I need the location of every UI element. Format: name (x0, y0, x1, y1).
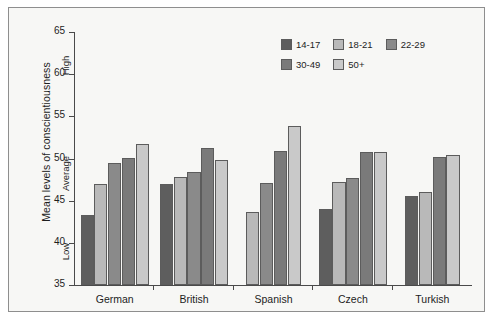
y-axis-tick-label: 35 (54, 278, 65, 289)
y-axis-tick-label: 50 (54, 152, 65, 163)
y-axis-tick: 35 (69, 285, 74, 286)
x-axis-tick (153, 285, 154, 290)
figure-frame: Mean levels of conscientiousness High Av… (8, 7, 485, 312)
bar (215, 160, 228, 285)
x-axis-line (74, 285, 472, 286)
legend-row-1: 14-1718-2122-29 (281, 39, 461, 50)
bar-group (75, 32, 154, 285)
y-axis-tick-label: 55 (54, 109, 65, 120)
y-band-label-high: High (60, 36, 71, 96)
bar (360, 152, 373, 285)
legend-item-label: 18-21 (348, 39, 372, 50)
y-axis-tick: 65 (69, 32, 74, 33)
legend-item[interactable]: 50+ (333, 59, 364, 70)
y-axis-tick-label: 45 (54, 194, 65, 205)
bar (405, 196, 418, 285)
y-axis-title: Mean levels of conscientiousness (40, 27, 52, 257)
bar (419, 192, 432, 285)
legend-item[interactable]: 14-17 (281, 39, 320, 50)
legend-swatch-icon (333, 59, 344, 70)
y-axis-tick: 40 (69, 243, 74, 244)
legend-swatch-icon (281, 39, 292, 50)
bar-group (154, 32, 233, 285)
bar (319, 209, 332, 285)
bar (433, 157, 446, 285)
chart-legend: 14-1718-2122-29 30-4950+ (281, 39, 461, 79)
legend-item-label: 14-17 (296, 39, 320, 50)
legend-item[interactable]: 18-21 (333, 39, 372, 50)
y-axis-tick-label: 65 (54, 25, 65, 36)
legend-row-2: 30-4950+ (281, 59, 461, 70)
legend-item-label: 50+ (348, 59, 364, 70)
bar (81, 215, 94, 285)
bar (94, 184, 107, 285)
bar (288, 126, 301, 285)
bar (260, 183, 273, 285)
bar (136, 144, 149, 285)
x-axis-category-label: Czech (338, 293, 368, 305)
bar (246, 212, 259, 285)
legend-item[interactable]: 30-49 (281, 59, 320, 70)
bar (374, 152, 387, 285)
bar (108, 163, 121, 285)
x-axis-category-label: British (180, 293, 209, 305)
legend-item[interactable]: 22-29 (386, 39, 425, 50)
bar (274, 151, 287, 285)
bar (201, 148, 214, 285)
bar (346, 178, 359, 285)
x-axis-tick (392, 285, 393, 290)
bar (174, 177, 187, 285)
legend-swatch-icon (333, 39, 344, 50)
bar (332, 182, 345, 285)
legend-item-label: 22-29 (401, 39, 425, 50)
legend-swatch-icon (386, 39, 397, 50)
chart-figure: Mean levels of conscientiousness High Av… (0, 0, 493, 320)
x-axis-tick (233, 285, 234, 290)
y-axis-tick: 45 (69, 201, 74, 202)
x-axis-category-label: Spanish (255, 293, 293, 305)
bar (122, 158, 135, 285)
x-axis-tick (312, 285, 313, 290)
legend-swatch-icon (281, 59, 292, 70)
bar (187, 172, 200, 285)
x-axis-category-label: German (96, 293, 134, 305)
legend-item-label: 30-49 (296, 59, 320, 70)
x-axis-category-label: Turkish (415, 293, 449, 305)
y-axis-tick: 50 (69, 159, 74, 160)
y-band-label-low: Low (60, 222, 71, 282)
y-axis-tick: 60 (69, 74, 74, 75)
bar (446, 155, 459, 285)
y-axis-tick: 55 (69, 116, 74, 117)
y-axis-tick-label: 40 (54, 236, 65, 247)
bar (160, 184, 173, 285)
y-axis-tick-label: 60 (54, 67, 65, 78)
